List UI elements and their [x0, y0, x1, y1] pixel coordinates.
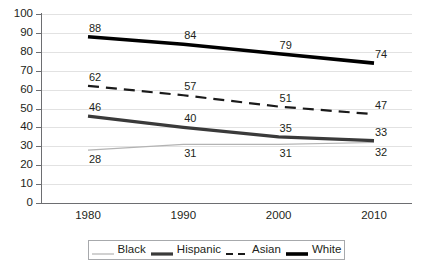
gridline [42, 52, 412, 53]
data-label: 84 [184, 30, 196, 41]
legend-label: White [312, 244, 341, 256]
data-label: 31 [184, 148, 196, 159]
data-label: 28 [89, 154, 101, 165]
legend-item-asian[interactable]: Asian [224, 244, 283, 256]
y-tick-mark [36, 90, 41, 91]
data-label: 47 [375, 100, 387, 111]
legend-label: Black [118, 244, 146, 256]
y-axis-line [41, 13, 42, 204]
legend-label: Hispanic [177, 244, 221, 256]
y-tick-label: 50 [0, 103, 33, 115]
gridline [42, 203, 412, 204]
data-label: 40 [184, 113, 196, 124]
y-tick-mark [36, 71, 41, 72]
y-tick-label: 20 [0, 159, 33, 171]
x-tick-label: 1990 [153, 210, 213, 222]
y-tick-label: 80 [0, 46, 33, 58]
y-tick-label: 70 [0, 65, 33, 77]
y-tick-mark [36, 146, 41, 147]
line-chart: 1009080706050403020100 1980199020002010 … [0, 0, 429, 275]
y-tick-label: 30 [0, 140, 33, 152]
data-label: 74 [375, 49, 387, 60]
legend-swatch-icon [92, 245, 114, 255]
y-tick-label: 10 [0, 178, 33, 190]
data-label: 51 [280, 93, 292, 104]
y-tick-label: 100 [0, 8, 33, 20]
gridline [42, 127, 412, 128]
gridline [42, 90, 412, 91]
y-tick-mark [36, 109, 41, 110]
x-tick-label: 1980 [58, 210, 118, 222]
x-tick-label: 2000 [249, 210, 309, 222]
y-tick-mark [36, 165, 41, 166]
y-tick-mark [36, 52, 41, 53]
gridline [42, 14, 412, 15]
data-label: 46 [89, 102, 101, 113]
y-tick-label: 0 [0, 197, 33, 209]
y-tick-label: 90 [0, 27, 33, 39]
legend-swatch-icon [151, 245, 173, 255]
x-tick-label: 2010 [344, 210, 404, 222]
legend-swatch-icon [286, 245, 308, 255]
y-tick-label: 40 [0, 121, 33, 133]
y-tick-mark [36, 203, 41, 204]
data-label: 33 [375, 127, 387, 138]
y-tick-label: 60 [0, 84, 33, 96]
gridline [42, 146, 412, 147]
gridline [42, 184, 412, 185]
data-label: 79 [280, 40, 292, 51]
data-label: 31 [280, 148, 292, 159]
data-label: 32 [375, 147, 387, 158]
data-label: 57 [184, 81, 196, 92]
legend-item-hispanic[interactable]: Hispanic [149, 244, 223, 256]
data-label: 35 [280, 123, 292, 134]
y-tick-mark [36, 33, 41, 34]
y-tick-mark [36, 127, 41, 128]
legend-item-white[interactable]: White [284, 244, 343, 256]
y-tick-mark [36, 184, 41, 185]
chart-legend: BlackHispanicAsianWhite [88, 240, 345, 260]
legend-swatch-icon [226, 245, 248, 255]
data-label: 62 [89, 72, 101, 83]
gridline [42, 165, 412, 166]
caption-ghost [104, 264, 424, 274]
legend-item-black[interactable]: Black [90, 244, 148, 256]
legend-label: Asian [252, 244, 281, 256]
data-label: 88 [89, 23, 101, 34]
y-tick-mark [36, 14, 41, 15]
